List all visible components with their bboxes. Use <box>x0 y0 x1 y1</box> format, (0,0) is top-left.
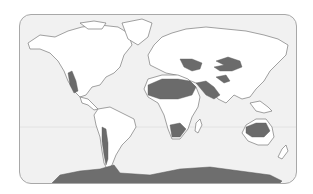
map-frame <box>19 14 297 184</box>
north-america <box>28 25 132 97</box>
southeast-asia-islands <box>250 101 272 113</box>
central-america <box>80 97 98 110</box>
antarctica <box>50 165 282 184</box>
madagascar <box>195 119 202 133</box>
world-map <box>20 15 297 184</box>
south-america <box>94 107 136 171</box>
desert-sahara <box>148 79 196 99</box>
new-zealand <box>278 145 288 159</box>
